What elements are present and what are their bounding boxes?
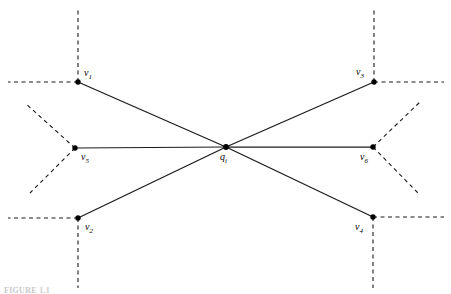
edge-v1-qi [78,82,226,147]
node-label-v4: v4 [355,222,363,232]
node-label-v2: v2 [85,222,93,232]
node-label-v3: v3 [356,67,364,77]
node-v6[interactable] [370,144,375,149]
diagram-svg [0,0,451,294]
node-qi[interactable] [223,144,229,150]
edge-qi-v4 [226,147,373,217]
dashed-ray-v6-downright [373,147,418,193]
node-v5[interactable] [72,145,77,150]
node-v1[interactable] [75,79,80,84]
edge-qi-v3 [226,82,374,147]
edge-v2-qi [78,147,226,218]
dashed-ray-v5-upleft [25,103,75,148]
node-label-v6: v6 [360,152,368,162]
node-v4[interactable] [370,214,375,219]
dashed-ray-v6-upright [373,102,420,147]
edge-v5-qi [75,147,226,148]
node-v2[interactable] [75,215,80,220]
node-label-v5: v5 [81,152,89,162]
dashed-ray-v5-downleft [30,148,75,193]
caption-fragment: FIGURE 1.1 [4,286,76,293]
node-label-v1: v1 [84,68,92,78]
node-label-qi: qi [220,152,227,162]
solid-edges-group [75,82,374,218]
node-v3[interactable] [371,79,376,84]
figure-canvas: v1 v2 v3 v4 v5 v6 qi FIGURE 1.1 [0,0,451,294]
